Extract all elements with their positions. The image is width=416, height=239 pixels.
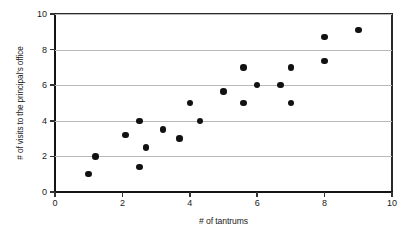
- y-tick-mark: [50, 120, 55, 122]
- x-tick-label: 8: [322, 198, 327, 208]
- data-point: [176, 135, 183, 142]
- y-tick-mark: [50, 84, 55, 86]
- gridline: [55, 85, 392, 86]
- y-tick-mark: [50, 156, 55, 158]
- x-tick-label: 4: [187, 198, 192, 208]
- data-point: [136, 118, 143, 125]
- gridline: [55, 50, 392, 51]
- x-tick-label: 10: [387, 198, 397, 208]
- y-axis-line: [54, 13, 56, 193]
- y-tick-label: 8: [42, 45, 47, 55]
- gridline: [55, 121, 392, 122]
- y-tick-mark: [50, 13, 55, 15]
- data-point: [240, 100, 247, 107]
- plot-area: 0246810 0246810: [55, 14, 392, 192]
- x-tick-label: 2: [120, 198, 125, 208]
- y-tick-label: 10: [37, 9, 47, 19]
- y-axis-title: # of visits to the principal's office: [14, 14, 28, 192]
- gridline: [55, 156, 392, 157]
- y-tick-mark: [50, 49, 55, 51]
- x-tick-label: 6: [255, 198, 260, 208]
- data-point: [92, 153, 99, 160]
- x-tick-mark: [324, 192, 326, 197]
- scatter-chart: # of visits to the principal's office 02…: [0, 0, 416, 239]
- x-tick-mark: [122, 192, 124, 197]
- data-point: [136, 164, 143, 171]
- y-tick-label: 4: [42, 116, 47, 126]
- x-tick-mark: [256, 192, 258, 197]
- gridline: [55, 14, 392, 15]
- plot-border-right: [391, 13, 393, 193]
- data-point: [85, 171, 92, 178]
- data-point: [355, 27, 362, 34]
- y-tick-label: 2: [42, 151, 47, 161]
- data-point: [288, 64, 295, 71]
- data-point: [160, 126, 167, 133]
- x-axis-line: [54, 191, 393, 193]
- data-point: [321, 58, 328, 65]
- data-point: [122, 132, 129, 139]
- data-point: [187, 100, 194, 107]
- x-tick-mark: [391, 192, 393, 197]
- data-point: [288, 100, 295, 107]
- x-tick-mark: [54, 192, 56, 197]
- data-point: [197, 118, 204, 125]
- y-tick-label: 6: [42, 80, 47, 90]
- data-point: [240, 64, 247, 71]
- data-point: [321, 34, 328, 41]
- x-tick-label: 0: [52, 198, 57, 208]
- x-axis-title: # of tantrums: [55, 216, 392, 226]
- x-tick-mark: [189, 192, 191, 197]
- y-tick-label: 0: [42, 187, 47, 197]
- data-point: [254, 82, 261, 89]
- data-point: [143, 144, 150, 151]
- data-point: [220, 88, 227, 95]
- data-point: [277, 82, 284, 89]
